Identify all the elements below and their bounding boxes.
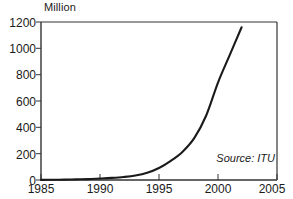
- data-series-line: [41, 27, 242, 180]
- chart-container: Million 1200 1000 800 600 400 200 0 1985…: [0, 0, 293, 199]
- plot-frame: [41, 22, 277, 180]
- chart-plot-area: [0, 0, 293, 199]
- y-axis-ticks: [36, 22, 41, 180]
